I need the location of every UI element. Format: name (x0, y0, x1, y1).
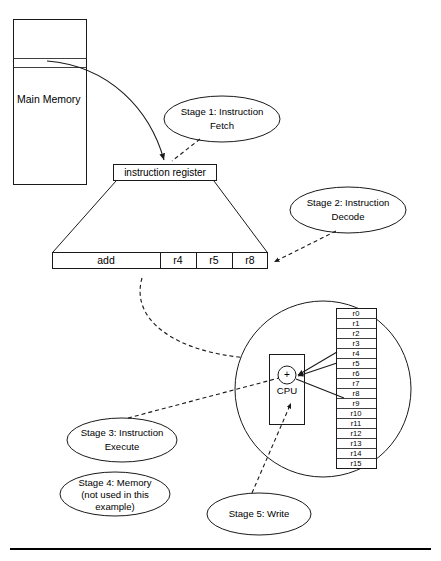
instruction-field-operand1: r4 (173, 254, 182, 266)
instruction-field-destination: r8 (245, 254, 254, 266)
stage-4-line2: (not used in this (81, 489, 149, 500)
instruction-register-label: instruction register (124, 167, 206, 178)
register-r3: r3 (353, 339, 360, 348)
register-r12: r12 (351, 429, 362, 438)
pipeline-diagram: Main Memory Stage 1: Instruction Fetch i… (0, 0, 441, 561)
stage-1-connector (172, 139, 200, 161)
stage-3-line1: Stage 3: Instruction (81, 427, 164, 438)
instruction-field-operand2: r5 (209, 254, 218, 266)
magnifier-circle (235, 301, 411, 477)
decode-to-execute-arrow (140, 278, 248, 358)
stage-4-line1: Stage 4: Memory (78, 477, 151, 488)
stage-5-ellipse: Stage 5: Write (207, 493, 311, 535)
register-r9: r9 (353, 399, 360, 408)
stage-1-line1: Stage 1: Instruction (181, 106, 264, 117)
register-r11: r11 (351, 419, 361, 428)
stage-1-line2: Fetch (210, 120, 234, 131)
register-r8: r8 (353, 389, 360, 398)
register-r13: r13 (351, 439, 362, 448)
stage-3-ellipse: Stage 3: Instruction Execute (67, 418, 177, 462)
stage-2-connector (274, 231, 336, 262)
stage-3-line2: Execute (105, 441, 140, 452)
alu-symbol: + (284, 369, 290, 380)
stage-4-ellipse: Stage 4: Memory (not used in this exampl… (60, 472, 170, 516)
main-memory-box: Main Memory (14, 20, 87, 185)
instruction-register-box: instruction register (114, 165, 217, 181)
register-r14: r14 (351, 449, 362, 458)
register-r6: r6 (353, 369, 360, 378)
stage-2-line2: Decode (331, 211, 364, 222)
instruction-fields-row: add r4 r5 r8 (53, 253, 268, 269)
stage-1-ellipse: Stage 1: Instruction Fetch (164, 96, 280, 142)
instruction-field-opcode: add (97, 254, 115, 266)
stage-5-line1: Stage 5: Write (229, 508, 290, 519)
register-r7: r7 (353, 379, 360, 388)
register-r2: r2 (353, 329, 360, 338)
register-r15: r15 (351, 459, 362, 468)
stage-2-line1: Stage 2: Instruction (307, 197, 390, 208)
register-r4: r4 (353, 349, 360, 358)
diagram-page: Main Memory Stage 1: Instruction Fetch i… (0, 0, 441, 561)
register-r1: r1 (353, 319, 360, 328)
register-r10: r10 (351, 409, 362, 418)
register-file: r0 r1 r2 r3 r4 r5 r6 r7 r8 r9 r10 r11 r1… (337, 309, 377, 469)
stage-4-line3: example) (95, 501, 134, 512)
main-memory-label: Main Memory (17, 93, 81, 105)
cpu-label: CPU (277, 385, 297, 396)
decode-trapezoid (53, 181, 267, 252)
register-r5: r5 (353, 359, 360, 368)
cpu-box: + CPU (270, 355, 305, 425)
stage-2-ellipse: Stage 2: Instruction Decode (290, 187, 406, 233)
register-r0: r0 (353, 309, 360, 318)
